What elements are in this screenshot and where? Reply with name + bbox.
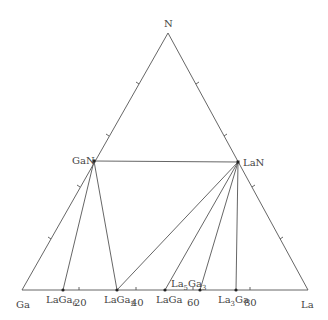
tick-label-40: 40: [131, 297, 144, 308]
ternary-diagram: [0, 0, 328, 320]
point-laga: [163, 288, 166, 291]
vertex-label-n: N: [164, 18, 173, 29]
point-la3ga: [234, 288, 237, 291]
tie-lan-laga: [165, 162, 238, 290]
label-la5ga3: La5Ga3: [171, 278, 207, 292]
tick-left-4: [136, 82, 139, 84]
point-laga6: [61, 288, 64, 291]
tick-right-3: [252, 185, 255, 187]
tick-left-2: [77, 185, 80, 187]
tick-label-60: 60: [187, 297, 200, 308]
label-lan: LaN: [243, 157, 264, 168]
label-gan: GaN: [72, 155, 95, 166]
point-lan: [237, 161, 240, 164]
tick-right-2: [224, 134, 227, 136]
tie-gan-lan: [94, 161, 238, 162]
label-laga: LaGa: [156, 294, 183, 305]
tick-left-1: [48, 237, 51, 239]
vertex-label-ga: Ga: [16, 299, 30, 310]
vertex-label-la: La: [301, 299, 314, 310]
tick-right-4: [280, 237, 283, 239]
tie-lan-la5ga3: [200, 162, 238, 290]
tie-lan-laga2: [117, 162, 238, 290]
tick-label-20: 20: [74, 297, 87, 308]
tie-gan-laga6: [63, 161, 94, 290]
tick-left-3: [106, 134, 109, 136]
label-laga6: LaGa6: [46, 294, 77, 308]
tick-label-80: 80: [244, 297, 257, 308]
tie-gan-laga2: [94, 161, 117, 290]
tie-lan-la3ga: [236, 162, 238, 290]
point-laga2: [115, 288, 118, 291]
tick-right-1: [196, 82, 199, 84]
